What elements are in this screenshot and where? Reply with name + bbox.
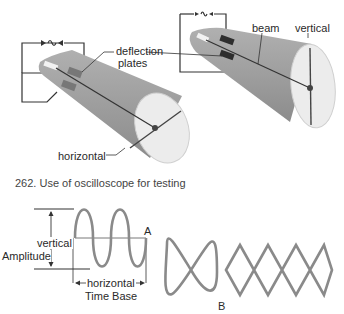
lissajous-chain (226, 245, 332, 295)
label-time-base: Time Base (85, 290, 137, 302)
lissajous-b (165, 238, 332, 295)
label-vertical-amplitude: vertical (36, 237, 73, 249)
beam-spot (152, 125, 158, 131)
label-horizontal-timebase: horizontal (86, 277, 136, 289)
figure-eight (165, 238, 217, 294)
label-vertical-tube: vertical (295, 22, 330, 34)
diagram-canvas (0, 0, 344, 314)
arrow-left-icon (195, 12, 199, 16)
label-beam: beam (252, 22, 280, 34)
arrow-right-icon (58, 40, 63, 46)
left-oscilloscope-tube (22, 40, 199, 171)
arrow-left-icon (41, 40, 46, 46)
beam-spot (307, 85, 313, 91)
label-plates: plates (118, 57, 147, 69)
label-a: A (144, 225, 151, 237)
figure-caption: 262. Use of oscilloscope for testing (15, 177, 186, 189)
label-amplitude: Amplitude (2, 250, 51, 262)
arrow-right-icon (209, 12, 213, 16)
ac-source-icon (201, 12, 207, 16)
label-horizontal-tube: horizontal (58, 150, 106, 162)
label-b: B (218, 300, 225, 312)
label-deflection: deflection (116, 45, 163, 57)
